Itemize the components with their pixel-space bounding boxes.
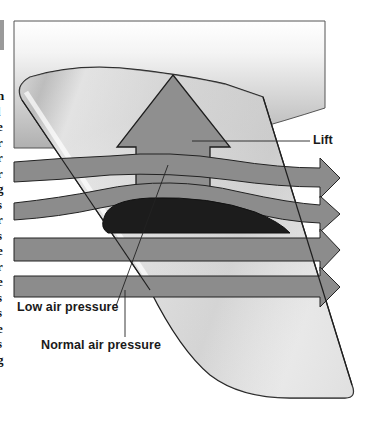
wing-lift-diagram: Lift Low air pressure Normal air pressur… (0, 0, 370, 432)
lift-label: Lift (313, 133, 333, 147)
normal-air-pressure-label: Normal air pressure (41, 338, 161, 352)
low-air-pressure-label: Low air pressure (17, 300, 119, 314)
